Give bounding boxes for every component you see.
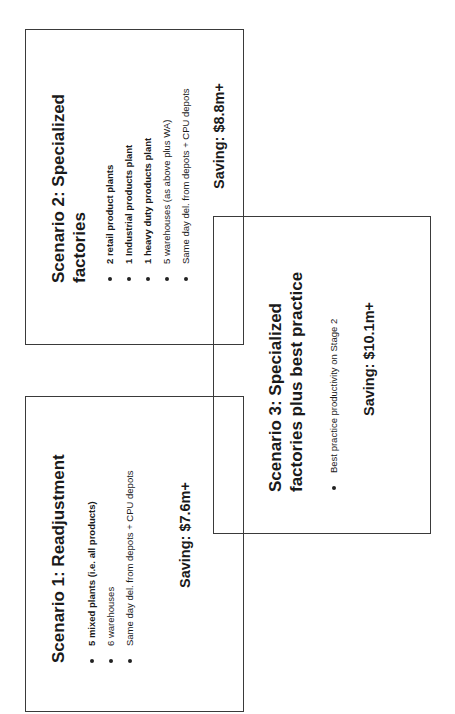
scenario-2-title-line2: factories (69, 94, 90, 283)
scenario-1-bullet-list: 5 mixed plants (i.e. all products) 6 war… (82, 470, 139, 665)
scenario-3-saving: Saving: $10.1m+ (361, 302, 377, 416)
scenario-1-bullet: 6 warehouses (101, 470, 120, 665)
scenario-2-bullet: 5 warehouses (as above plus WA) (157, 88, 176, 283)
scenario-2-box: Scenario 2: Specialized factories 2 reta… (25, 29, 244, 345)
scenario-2-saving: Saving: $8.8m+ (211, 83, 227, 189)
scenario-3-bullet: Best practice productivity on Stage 2 (324, 319, 343, 492)
scenario-1-bullet: Same day del. from depots + CPU depots (120, 470, 139, 665)
scenario-1-saving: Saving: $7.6m+ (177, 482, 193, 588)
scenario-1-box: Scenario 1: Readjustment 5 mixed plants … (25, 396, 244, 712)
scenario-1-title: Scenario 1: Readjustment (48, 454, 69, 663)
scenario-2-bullet: Same day del. from depots + CPU depots (176, 88, 195, 283)
scenario-3-title-line1: Scenario 3: Specialized (265, 272, 286, 492)
scenario-2-bullet: 2 retail product plants (100, 88, 119, 283)
rotated-document-page: Scenario 1: Readjustment 5 mixed plants … (0, 0, 455, 714)
scenario-1-bullet: 5 mixed plants (i.e. all products) (82, 470, 101, 665)
scenario-2-bullet: 1 heavy duty products plant (138, 88, 157, 283)
scenario-3-bullet-list: Best practice productivity on Stage 2 (324, 319, 343, 492)
scenario-2-title-line1: Scenario 2: Specialized (48, 94, 69, 283)
scenario-2-bullet-list: 2 retail product plants 1 Industrial pro… (100, 88, 195, 283)
scenario-1-title-text: Scenario 1: Readjustment (49, 454, 68, 663)
scenario-2-bullet: 1 Industrial products plant (119, 88, 138, 283)
scenario-3-title: Scenario 3: Specialized factories plus b… (265, 272, 307, 492)
scenario-3-title-line2: factories plus best practice (286, 272, 307, 492)
scenario-2-title: Scenario 2: Specialized factories (48, 94, 90, 283)
scenario-3-box: Scenario 3: Specialized factories plus b… (213, 216, 431, 534)
